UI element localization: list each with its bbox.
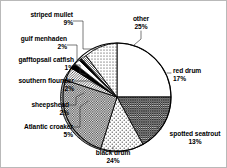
label-atlantic-croaker-name: Atlantic croaker (3, 123, 73, 131)
label-southern-flounder-name: southern flounder (2, 77, 74, 85)
label-spotted-seatrout-name: spotted seatrout (162, 130, 227, 138)
label-black-drum: black drum 24% (81, 149, 145, 164)
label-gulf-menhaden-pct: 2% (3, 43, 67, 51)
label-atlantic-croaker: Atlantic croaker 5% (3, 123, 73, 138)
label-spotted-seatrout: spotted seatrout 13% (162, 130, 227, 145)
label-sheepshead-name: sheepshead (3, 101, 69, 109)
label-red-drum-pct: 17% (173, 75, 227, 83)
label-striped-mullet: striped mullet 9% (3, 11, 73, 26)
label-gafftopsail-catfish: gafftopsail catfish 1% (2, 56, 74, 71)
label-gafftopsail-catfish-pct: 1% (2, 64, 74, 72)
label-sheepshead: sheepshead 2% (3, 101, 69, 116)
label-other: other 25% (119, 15, 163, 30)
label-other-pct: 25% (119, 23, 163, 31)
label-gafftopsail-catfish-name: gafftopsail catfish (2, 56, 74, 64)
leader-other (134, 31, 141, 45)
label-striped-mullet-name: striped mullet (3, 11, 73, 19)
pie-chart-figure: striped mullet 9% gulf menhaden 2% gafft… (0, 0, 227, 168)
label-spotted-seatrout-pct: 13% (162, 138, 227, 146)
label-red-drum-name: red drum (173, 67, 227, 75)
label-sheepshead-pct: 2% (3, 109, 69, 117)
label-other-name: other (119, 15, 163, 23)
label-atlantic-croaker-pct: 5% (3, 131, 73, 139)
label-black-drum-name: black drum (81, 149, 145, 157)
label-southern-flounder: southern flounder 2% (2, 77, 74, 92)
label-striped-mullet-pct: 9% (3, 19, 73, 27)
label-black-drum-pct: 24% (81, 157, 145, 165)
pie-slice-other[interactable] (117, 43, 171, 97)
label-red-drum: red drum 17% (173, 67, 227, 82)
label-southern-flounder-pct: 2% (2, 85, 74, 93)
label-gulf-menhaden: gulf menhaden 2% (3, 35, 67, 50)
label-gulf-menhaden-name: gulf menhaden (3, 35, 67, 43)
